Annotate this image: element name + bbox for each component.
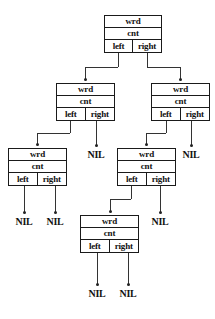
edge-segment-e-root-left bbox=[118, 53, 119, 67]
edge-segment-e-nrl-right bbox=[160, 186, 161, 213]
node-pointer-right: right bbox=[133, 40, 161, 53]
binary-tree-diagram: wrdcntleftrightwrdcntleftrightwrdcntleft… bbox=[0, 0, 215, 319]
node-pointer-left: left bbox=[118, 173, 147, 186]
edge-arrow-e-nrll-right bbox=[127, 283, 130, 286]
node-pointer-right: right bbox=[147, 173, 176, 186]
edge-arrow-e-nr-left bbox=[145, 143, 148, 146]
edge-segment-e-nll-right bbox=[55, 186, 56, 213]
edge-segment-e-nr-right bbox=[191, 121, 192, 146]
nil-leaf-nil-5: NIL bbox=[148, 216, 172, 227]
node-pointer-left: left bbox=[105, 40, 133, 53]
edge-arrow-e-nrll-left bbox=[96, 283, 99, 286]
tree-node-n-l: wrdcntleftright bbox=[56, 83, 115, 121]
node-field-cnt: cnt bbox=[57, 96, 114, 108]
edge-arrow-e-root-left bbox=[84, 78, 87, 81]
node-field-cnt: cnt bbox=[9, 161, 66, 173]
node-field-cnt: cnt bbox=[152, 96, 209, 108]
node-pointer-left: left bbox=[9, 173, 38, 186]
nil-leaf-nil-1: NIL bbox=[84, 149, 108, 160]
node-field-wrd: wrd bbox=[105, 16, 161, 28]
edge-arrow-e-nrl-right bbox=[159, 211, 162, 214]
edge-arrow-e-nll-right bbox=[54, 211, 57, 214]
tree-node-root: wrdcntleftright bbox=[104, 15, 162, 53]
node-pointer-left: left bbox=[152, 108, 181, 121]
edge-arrow-e-nr-right bbox=[190, 144, 193, 147]
edge-segment-e-nll-left bbox=[24, 186, 25, 213]
tree-node-n-rl: wrdcntleftright bbox=[117, 148, 176, 186]
node-field-cnt: cnt bbox=[118, 161, 175, 173]
edge-arrow-e-root-right bbox=[179, 78, 182, 81]
node-pointer-row: leftright bbox=[105, 40, 161, 53]
nil-leaf-nil-7: NIL bbox=[116, 288, 140, 299]
edge-arrow-e-nll-left bbox=[23, 211, 26, 214]
node-pointer-right: right bbox=[181, 108, 210, 121]
node-pointer-row: leftright bbox=[81, 240, 138, 253]
node-pointer-row: leftright bbox=[57, 108, 114, 121]
edge-segment-e-nr-left bbox=[166, 121, 167, 133]
node-pointer-left: left bbox=[57, 108, 86, 121]
edge-segment-e-nl-left bbox=[70, 121, 71, 133]
edge-elbow-e-root-left bbox=[85, 67, 118, 68]
node-pointer-row: leftright bbox=[152, 108, 209, 121]
edge-arrow-e-nl-right bbox=[95, 144, 98, 147]
node-pointer-row: leftright bbox=[9, 173, 66, 186]
edge-segment-e-nrll-right bbox=[128, 253, 129, 285]
node-field-cnt: cnt bbox=[105, 28, 161, 40]
node-field-wrd: wrd bbox=[57, 84, 114, 96]
node-field-wrd: wrd bbox=[118, 149, 175, 161]
edge-arrow-e-nrl-left bbox=[109, 210, 112, 213]
tree-node-n-rll: wrdcntleftright bbox=[80, 215, 139, 253]
node-field-wrd: wrd bbox=[81, 216, 138, 228]
nil-leaf-nil-6: NIL bbox=[85, 288, 109, 299]
edge-segment-e-nrl-left bbox=[131, 186, 132, 199]
node-field-wrd: wrd bbox=[152, 84, 209, 96]
node-pointer-right: right bbox=[38, 173, 67, 186]
node-pointer-row: leftright bbox=[118, 173, 175, 186]
edge-segment-e-nl-right bbox=[96, 121, 97, 146]
node-field-wrd: wrd bbox=[9, 149, 66, 161]
edge-segment-e-nrll-left bbox=[97, 253, 98, 285]
tree-node-n-r: wrdcntleftright bbox=[151, 83, 210, 121]
edge-elbow-e-root-right bbox=[147, 67, 180, 68]
edge-elbow-e-nrl-left bbox=[110, 199, 131, 200]
node-pointer-right: right bbox=[110, 240, 139, 253]
node-pointer-right: right bbox=[86, 108, 115, 121]
edge-segment-e-root-right bbox=[147, 53, 148, 67]
edge-arrow-e-nl-left bbox=[36, 143, 39, 146]
edge-elbow-e-nr-left bbox=[146, 133, 166, 134]
node-pointer-left: left bbox=[81, 240, 110, 253]
tree-node-n-ll: wrdcntleftright bbox=[8, 148, 67, 186]
nil-leaf-nil-2: NIL bbox=[179, 149, 203, 160]
edge-elbow-e-nl-left bbox=[37, 133, 70, 134]
node-field-cnt: cnt bbox=[81, 228, 138, 240]
nil-leaf-nil-4: NIL bbox=[43, 216, 67, 227]
nil-leaf-nil-3: NIL bbox=[12, 216, 36, 227]
